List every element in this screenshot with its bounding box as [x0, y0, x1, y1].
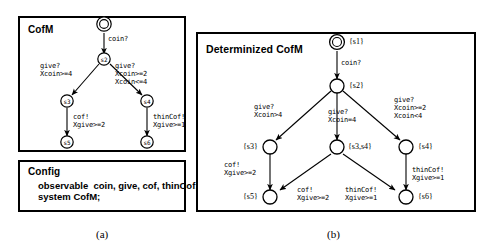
edge-label-d34-d5: cof! Xgive>=2 — [297, 186, 329, 202]
node-label-d5: {s5} — [243, 192, 258, 201]
figure-root: CofM Config observable coin, give, cof, … — [0, 0, 492, 251]
edge-label-d2-d34: give? Xcoin=4 — [328, 108, 356, 124]
node-label-d4: {s4} — [418, 142, 433, 151]
node-label-s4: s4 — [141, 98, 153, 105]
panel-cofm-title: CofM — [28, 24, 53, 35]
node-label-s5: s5 — [61, 139, 73, 146]
node-label-s6: s6 — [141, 139, 153, 146]
node-label-s3: s3 — [61, 98, 73, 105]
node-label-d6: {s6} — [418, 192, 433, 201]
edge-label-s1-s2: coin? — [108, 35, 128, 43]
edge-label-d2-d4: give? Xcoin>=2 Xcoin<4 — [394, 96, 426, 120]
node-label-s2: s2 — [98, 56, 110, 63]
edge-label-s3-s5: cof! Xgive>=2 — [73, 113, 105, 129]
caption-a: (a) — [96, 228, 108, 240]
edge-label-s4-s6: thinCof! Xgive>=1 — [153, 113, 185, 129]
edge-label-d4-d6: thinCof! Xgive>=1 — [412, 166, 444, 182]
config-body-text: observable coin, give, cof, thinCof; sys… — [38, 180, 198, 202]
node-label-d1: {s1} — [349, 37, 364, 46]
node-label-d2: {s2} — [349, 81, 364, 90]
panel-config: Config observable coin, give, cof, thinC… — [18, 160, 186, 212]
panel-config-title: Config — [28, 166, 60, 177]
node-label-d34: {s3,s4} — [348, 142, 372, 151]
edge-label-d3-d5: cof! Xgive>=2 — [224, 161, 256, 177]
panel-determinized-title: Determinized CofM — [206, 43, 303, 55]
caption-b: (b) — [327, 228, 340, 240]
edge-label-d2-d3: give? Xcoin>4 — [254, 103, 282, 119]
edge-label-s2-s4: give? Xcoin>=2 Xcoin<=4 — [115, 62, 147, 86]
panel-cofm: CofM — [18, 16, 186, 152]
edge-label-s2-s3: give? Xcoin>=4 — [40, 62, 72, 78]
edge-label-d34-d6: thinCof! Xgive>=1 — [345, 186, 377, 202]
edge-label-d1-d2: coin? — [341, 59, 361, 67]
node-label-d3: {s3} — [243, 142, 258, 151]
